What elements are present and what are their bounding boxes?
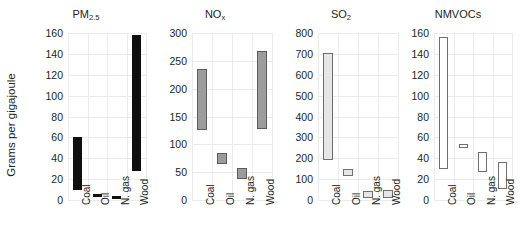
range-bar: [478, 152, 487, 172]
x-category-label: N. gas: [121, 176, 131, 205]
x-gridline: [88, 33, 89, 200]
x-gridline: [107, 33, 108, 200]
x-category-label: Oil: [352, 193, 362, 205]
y-tick-label: 200: [278, 153, 313, 164]
x-category-label: Oil: [101, 193, 111, 205]
y-tick-label: 800: [278, 28, 313, 39]
range-bar: [343, 169, 352, 176]
x-gridline: [338, 33, 339, 200]
x-category-label: Oil: [467, 193, 477, 205]
y-tick-label: 0: [398, 195, 429, 206]
y-tick-label: 0: [20, 195, 63, 206]
x-category-label: Wood: [140, 179, 150, 205]
y-tick-label: 120: [20, 70, 63, 81]
range-bar: [73, 137, 82, 189]
x-gridline: [493, 33, 494, 200]
range-bar: [323, 53, 332, 161]
x-gridline: [192, 33, 193, 200]
y-tick-label: 120: [398, 70, 429, 81]
panel-nmvocs: NMVOCs020406080100120140160CoalOilN. gas…: [398, 0, 518, 249]
panel-title: SO2: [278, 8, 404, 20]
x-gridline: [272, 33, 273, 200]
y-tick-label: 500: [278, 90, 313, 101]
x-gridline: [252, 33, 253, 200]
x-gridline: [473, 33, 474, 200]
panel-title-base: NO: [205, 8, 222, 20]
y-axis-label-text: Grams per gigajoule: [5, 73, 17, 177]
x-gridline: [318, 33, 319, 200]
y-tick-label: 150: [152, 111, 187, 122]
x-category-label: Oil: [226, 193, 236, 205]
panel-title-subscript: 2: [347, 13, 351, 22]
range-bar: [217, 153, 226, 164]
y-tick-label: 160: [20, 28, 63, 39]
x-gridline: [68, 33, 69, 200]
y-axis-label: Grams per gigajoule: [2, 0, 20, 249]
y-tick-label: 700: [278, 49, 313, 60]
x-category-label: Coal: [448, 184, 458, 205]
panel-title: NMVOCs: [398, 8, 518, 20]
y-tick-label: 100: [20, 90, 63, 101]
y-tick-label: 40: [398, 153, 429, 164]
x-category-label: Coal: [332, 184, 342, 205]
y-tick-label: 160: [398, 28, 429, 39]
x-gridline: [434, 33, 435, 200]
x-gridline: [232, 33, 233, 200]
multi-panel-range-chart: Grams per gigajoule PM2.5020406080100120…: [0, 0, 520, 249]
x-gridline: [378, 33, 379, 200]
y-tick-label: 20: [20, 174, 63, 185]
x-gridline: [146, 33, 147, 200]
y-tick-label: 140: [20, 49, 63, 60]
x-category-label: N. gas: [246, 176, 256, 205]
y-tick-label: 400: [278, 111, 313, 122]
x-category-label: N. gas: [487, 176, 497, 205]
x-category-label: N. gas: [372, 176, 382, 205]
panel-nox: NOx050100150200250300CoalOilN. gasWood: [152, 0, 278, 249]
y-tick-label: 80: [20, 111, 63, 122]
y-tick-label: 140: [398, 49, 429, 60]
panel-title: NOx: [152, 8, 278, 20]
panel-title-subscript: 2.5: [89, 13, 99, 22]
panel-title-base: SO: [331, 8, 347, 20]
panel-title: PM2.5: [20, 8, 152, 20]
y-tick-label: 100: [152, 139, 187, 150]
y-tick-label: 0: [152, 195, 187, 206]
x-gridline: [127, 33, 128, 200]
panel-title-base: PM: [73, 8, 90, 20]
y-tick-label: 40: [20, 153, 63, 164]
x-gridline: [454, 33, 455, 200]
x-category-label: Coal: [82, 184, 92, 205]
y-tick-label: 100: [278, 174, 313, 185]
y-tick-label: 0: [278, 195, 313, 206]
range-bar: [439, 37, 448, 169]
x-category-label: Wood: [266, 179, 276, 205]
y-tick-label: 80: [398, 111, 429, 122]
x-category-label: Coal: [206, 184, 216, 205]
y-tick-label: 60: [20, 132, 63, 143]
range-bar: [459, 144, 468, 148]
y-tick-label: 100: [398, 90, 429, 101]
x-gridline: [358, 33, 359, 200]
panel-pm2-5: PM2.5020406080100120140160CoalOilN. gasW…: [20, 0, 152, 249]
y-tick-label: 300: [152, 28, 187, 39]
panel-so2: SO20100200300400500600700800CoalOilN. ga…: [278, 0, 404, 249]
panel-title-subscript: x: [221, 13, 225, 22]
y-tick-label: 600: [278, 70, 313, 81]
x-gridline: [212, 33, 213, 200]
range-bar: [132, 35, 141, 171]
range-bar: [257, 51, 266, 129]
y-tick-label: 50: [152, 167, 187, 178]
y-tick-label: 60: [398, 132, 429, 143]
y-tick-label: 300: [278, 132, 313, 143]
x-category-label: Wood: [506, 179, 516, 205]
range-bar: [197, 69, 206, 130]
y-tick-label: 20: [398, 174, 429, 185]
panel-title-base: NMVOCs: [435, 8, 481, 20]
y-tick-label: 200: [152, 83, 187, 94]
y-tick-label: 250: [152, 56, 187, 67]
x-gridline: [512, 33, 513, 200]
